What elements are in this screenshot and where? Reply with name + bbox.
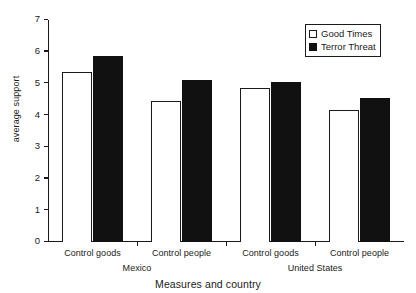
group-label: Mexico (123, 263, 152, 273)
legend-item-terror-threat: Terror Threat (309, 40, 376, 53)
y-axis-tick-label: 1 (35, 205, 40, 215)
legend: Good Times Terror Threat (305, 24, 381, 57)
y-axis-tick-label: 4 (35, 110, 40, 120)
y-axis-tick: 3 (44, 146, 48, 147)
group-label: United States (288, 263, 343, 273)
filled-square-icon (309, 43, 317, 51)
bar-good-times (240, 88, 270, 242)
bar-chart: average support 01234567 Control goodsCo… (0, 0, 416, 293)
y-axis-tick: 7 (44, 19, 48, 20)
legend-item-good-times: Good Times (309, 27, 376, 40)
y-axis-line (48, 20, 49, 242)
category-label: Control people (152, 248, 211, 258)
y-axis-tick: 4 (44, 114, 48, 115)
open-square-icon (309, 30, 317, 38)
y-axis-tick-label: 3 (35, 141, 40, 151)
category-label: Control goods (242, 248, 299, 258)
y-axis-tick-label: 2 (35, 173, 40, 183)
y-axis-tick: 2 (44, 177, 48, 178)
bar-terror-threat (93, 56, 123, 242)
bar-good-times (329, 110, 359, 242)
x-axis-tick (315, 242, 316, 246)
y-axis-tick: 1 (44, 209, 48, 210)
y-axis-tick-label: 5 (35, 78, 40, 88)
bar-good-times (151, 101, 181, 242)
legend-label: Terror Threat (321, 42, 376, 52)
bar-terror-threat (360, 98, 390, 242)
y-axis-tick-label: 6 (35, 46, 40, 56)
x-axis-tick (137, 242, 138, 246)
y-axis-tick-label: 7 (35, 15, 40, 25)
x-axis-tick (226, 242, 227, 246)
legend-label: Good Times (321, 29, 372, 39)
y-axis-title: average support (11, 49, 21, 169)
bar-terror-threat (271, 82, 301, 242)
bar-good-times (62, 72, 92, 242)
category-label: Control goods (64, 248, 121, 258)
y-axis-tick: 6 (44, 50, 48, 51)
x-axis-title: Measures and country (0, 278, 416, 290)
y-axis-tick-label: 0 (35, 237, 40, 247)
y-axis-tick: 5 (44, 82, 48, 83)
y-axis-tick: 0 (44, 241, 48, 242)
bar-terror-threat (182, 80, 212, 242)
category-label: Control people (330, 248, 389, 258)
